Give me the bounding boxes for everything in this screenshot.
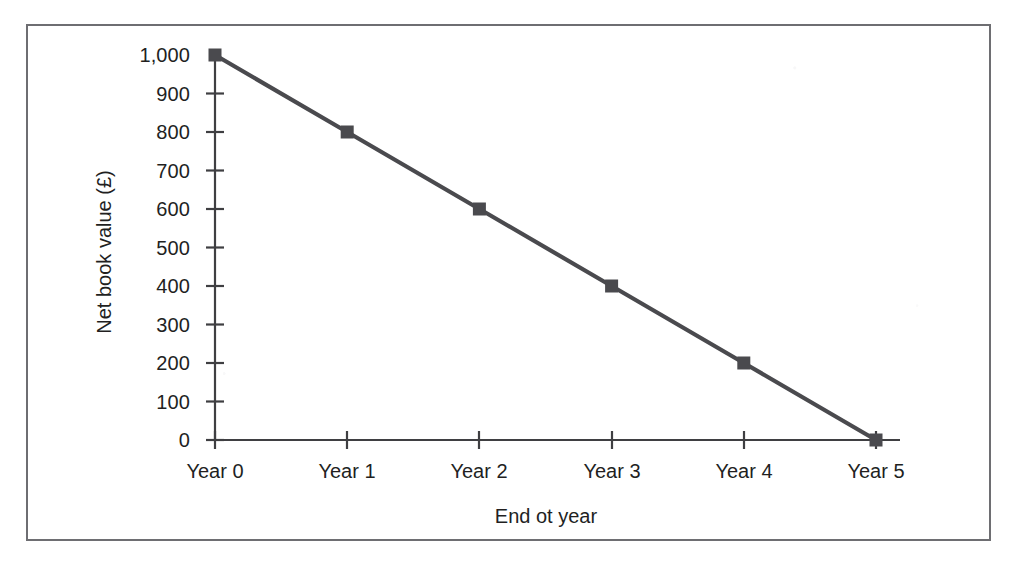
x-tick-label-year-5: Year 5 xyxy=(847,460,904,483)
y-tick-label-500: 500 xyxy=(70,236,190,259)
y-tick-label-300: 300 xyxy=(70,313,190,336)
y-tick-label-800: 800 xyxy=(70,121,190,144)
y-tick-label-900: 900 xyxy=(70,82,190,105)
y-tick-label-200: 200 xyxy=(70,352,190,375)
x-tick-label-year-2: Year 2 xyxy=(450,460,507,483)
y-tick-label-100: 100 xyxy=(70,390,190,413)
x-axis-title: End ot year xyxy=(495,505,597,528)
y-tick-label-600: 600 xyxy=(70,198,190,221)
x-tick-label-year-4: Year 4 xyxy=(715,460,772,483)
x-tick-label-year-3: Year 3 xyxy=(583,460,640,483)
y-tick-label-400: 400 xyxy=(70,275,190,298)
x-tick-label-year-1: Year 1 xyxy=(318,460,375,483)
y-tick-label-1000: 1,000 xyxy=(70,44,190,67)
figure-container: Net book value (£) End ot year 0 100 200… xyxy=(0,0,1019,566)
x-tick-label-year-0: Year 0 xyxy=(186,460,243,483)
y-tick-label-700: 700 xyxy=(70,159,190,182)
y-tick-label-0: 0 xyxy=(70,429,190,452)
